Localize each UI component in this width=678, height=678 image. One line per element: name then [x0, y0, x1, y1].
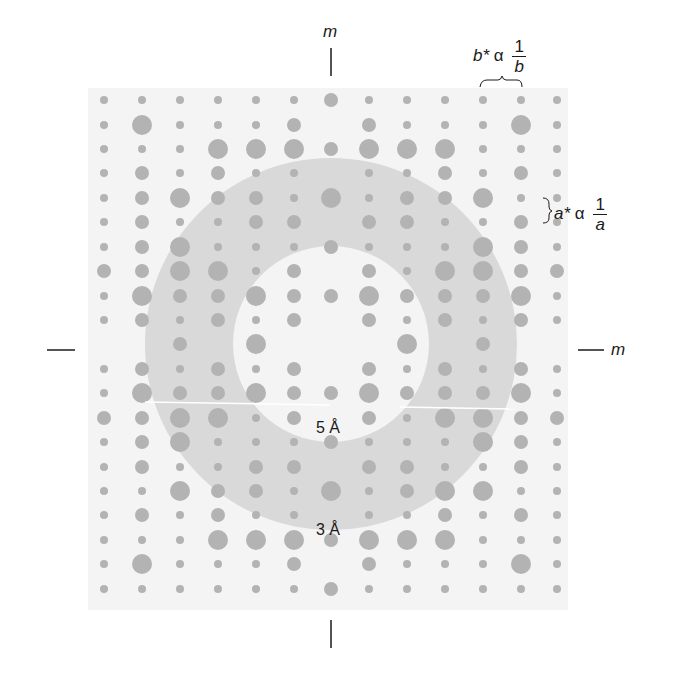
reflection-spot	[284, 139, 304, 159]
reflection-spot	[403, 414, 411, 422]
reflection-spot	[290, 511, 298, 519]
proportional-symbol: α	[575, 204, 585, 223]
reflection-spot	[438, 313, 452, 327]
reflection-spot	[100, 292, 108, 300]
reflection-spot	[403, 560, 411, 568]
reflection-spot	[403, 511, 411, 519]
reflection-spot	[252, 267, 260, 275]
reflection-spot	[176, 365, 184, 373]
reflection-spot	[135, 313, 149, 327]
reflection-spot	[211, 313, 225, 327]
reflection-spot	[479, 96, 487, 104]
reflection-spot	[287, 289, 301, 303]
reflection-spot	[514, 166, 528, 180]
reflection-spot	[403, 365, 411, 373]
mirror-label-right: m	[611, 340, 625, 360]
reflection-spot	[214, 585, 222, 593]
reflection-spot	[249, 191, 263, 205]
reflection-spot	[438, 362, 452, 376]
reflection-spot	[473, 408, 493, 428]
reflection-spot	[473, 261, 493, 281]
reflection-spot	[400, 191, 414, 205]
reflection-spot	[403, 438, 411, 446]
reflection-spot	[553, 389, 561, 397]
reflection-spot	[252, 316, 260, 324]
reflection-spot	[290, 194, 298, 202]
reflection-spot	[100, 536, 108, 544]
reflection-spot	[211, 289, 225, 303]
reflection-spot	[362, 313, 376, 327]
reflection-spot	[441, 243, 449, 251]
reflection-spot	[176, 96, 184, 104]
reflection-spot	[403, 316, 411, 324]
reflection-spot	[397, 530, 417, 550]
reflection-spot	[473, 188, 493, 208]
reflection-spot	[517, 194, 525, 202]
reflection-spot	[553, 536, 561, 544]
b-star-relation: b* α 1 b	[473, 38, 526, 75]
reflection-spot	[100, 218, 108, 226]
reflection-spot	[100, 243, 108, 251]
reflection-spot	[132, 115, 152, 135]
reflection-spot	[138, 487, 146, 495]
reflection-spot	[252, 96, 260, 104]
reflection-spot	[252, 121, 260, 129]
reflection-spot	[211, 386, 225, 400]
reflection-spot	[400, 484, 414, 498]
reflection-spot	[362, 118, 376, 132]
reflection-spot	[476, 337, 490, 351]
reflection-spot	[100, 487, 108, 495]
reflection-spot	[100, 96, 108, 104]
reflection-spot	[100, 316, 108, 324]
reflection-spot	[138, 96, 146, 104]
reflection-spot	[553, 121, 561, 129]
reflection-spot	[400, 386, 414, 400]
a-fraction-numerator: 1	[593, 196, 606, 215]
reflection-spot	[435, 139, 455, 159]
reflection-spot	[514, 313, 528, 327]
reflection-spot	[135, 215, 149, 229]
reflection-spot	[514, 240, 528, 254]
reflection-spot	[135, 240, 149, 254]
reflection-spot	[211, 166, 225, 180]
reflection-spot	[553, 487, 561, 495]
reflection-spot	[211, 508, 225, 522]
reflection-spot	[290, 243, 298, 251]
reflection-spot	[100, 169, 108, 177]
reflection-spot	[441, 218, 449, 226]
reflection-spot	[321, 188, 341, 208]
reflection-spot	[479, 145, 487, 153]
b-fraction: 1 b	[512, 38, 525, 75]
reflection-spot	[176, 536, 184, 544]
reflection-spot	[441, 121, 449, 129]
reflection-spot	[214, 243, 222, 251]
reflection-spot	[211, 191, 225, 205]
reflection-spot	[553, 292, 561, 300]
reflection-spot	[517, 585, 525, 593]
reflection-spot	[176, 316, 184, 324]
diffraction-figure: m m b* α 1 b a* α 1 a 5 Å 3 Å	[0, 0, 678, 678]
reflection-spot	[135, 411, 149, 425]
reflection-spot	[476, 289, 490, 303]
reflection-spot	[435, 261, 455, 281]
reflection-spot	[170, 432, 190, 452]
reflection-spot	[100, 365, 108, 373]
reflection-spot	[362, 264, 376, 278]
reflection-spot	[97, 264, 111, 278]
reflection-spot	[287, 362, 301, 376]
reflection-spot	[473, 237, 493, 257]
reflection-spot	[517, 487, 525, 495]
reflection-spot	[176, 218, 184, 226]
reflection-spot	[359, 530, 379, 550]
reflection-spot	[362, 557, 376, 571]
reflection-spot	[400, 289, 414, 303]
reflection-spot	[324, 386, 338, 400]
reflection-spot	[100, 194, 108, 202]
reflection-spot	[553, 463, 561, 471]
reflection-spot	[365, 585, 373, 593]
reflection-spot	[249, 484, 263, 498]
reflection-spot	[550, 411, 564, 425]
reflection-spot	[324, 240, 338, 254]
b-star-symbol: b*	[473, 46, 489, 65]
reflection-spot	[403, 169, 411, 177]
